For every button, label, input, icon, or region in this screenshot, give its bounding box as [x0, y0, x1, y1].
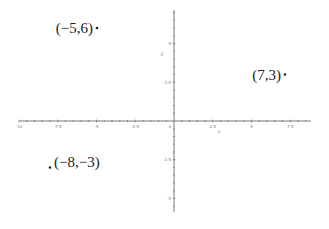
y-tick-label: -5	[167, 196, 171, 201]
x-tick-label: 5	[250, 124, 253, 129]
x-tick-label: 2.5	[210, 124, 217, 129]
x-tick-label: -5	[95, 124, 99, 129]
x-tick-label: -7.5	[54, 124, 62, 129]
y-tick-label: -2.5	[163, 157, 171, 162]
coordinate-plane: -10 -7.5 -5 -2.5 0 2.5 5 7.5 x 5 2.5 -2.…	[0, 0, 329, 229]
x-tick-label: -2.5	[131, 124, 139, 129]
point-marker	[49, 166, 52, 169]
point-label: (−8,−3)	[54, 154, 100, 171]
y-tick-label: 5	[168, 41, 171, 46]
x-tick-label: 7.5	[287, 124, 294, 129]
x-tick-label: -10	[16, 124, 23, 129]
y-tick-label: 2.5	[165, 80, 172, 85]
x-tick-label: 0	[169, 124, 172, 129]
x-axis-title: x	[218, 128, 221, 134]
point-marker	[96, 27, 99, 30]
y-axis-title: y	[160, 50, 164, 57]
point-label: (7,3)	[252, 67, 281, 84]
point-marker	[284, 73, 287, 76]
point-label: (−5,6)	[56, 20, 93, 37]
